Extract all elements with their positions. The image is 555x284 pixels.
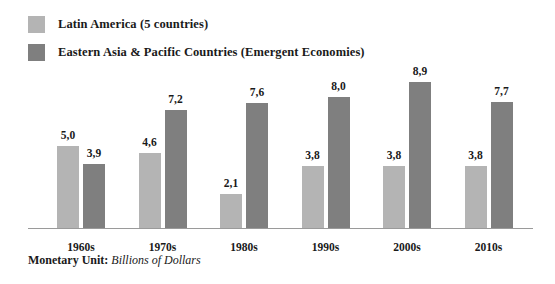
bar-latin-america: 4,6: [139, 153, 161, 228]
bar-eastern-asia-pacific: 7,7: [491, 102, 513, 228]
bar-value-label: 3,8: [305, 150, 319, 162]
plot-area: 5,03,91960s4,67,21970s2,17,61980s3,88,01…: [0, 0, 555, 284]
bar-latin-america: 2,1: [220, 194, 242, 228]
bar-latin-america: 3,8: [465, 166, 487, 228]
bar-value-label: 4,6: [142, 137, 156, 149]
bar-value-label: 3,8: [387, 150, 401, 162]
bar-value-label: 7,7: [494, 86, 508, 98]
bar-eastern-asia-pacific: 3,9: [83, 164, 105, 228]
bar-value-label: 8,0: [331, 81, 345, 93]
bar-latin-america: 3,8: [383, 166, 405, 228]
x-axis-label: 2010s: [475, 242, 502, 254]
monetary-unit-note: Monetary Unit: Billions of Dollars: [28, 254, 201, 266]
bar-eastern-asia-pacific: 8,9: [409, 82, 431, 228]
bar-latin-america: 5,0: [57, 146, 79, 228]
bar-value-label: 3,8: [468, 150, 482, 162]
x-axis-label: 1960s: [67, 242, 94, 254]
bar-latin-america: 3,8: [302, 166, 324, 228]
x-axis-label: 1990s: [312, 242, 339, 254]
bar-group: 3,87,72010s: [465, 0, 513, 284]
bar-group: 2,17,61980s: [220, 0, 268, 284]
bar-group: 3,88,01990s: [302, 0, 350, 284]
bar-value-label: 7,6: [250, 87, 264, 99]
bar-value-label: 8,9: [413, 66, 427, 78]
monetary-unit-value: Billions of Dollars: [111, 253, 200, 267]
bar-value-label: 2,1: [224, 178, 238, 190]
bar-group: 3,88,92000s: [383, 0, 431, 284]
bar-value-label: 5,0: [61, 130, 75, 142]
bar-eastern-asia-pacific: 7,6: [246, 103, 268, 228]
x-axis-label: 1980s: [230, 242, 257, 254]
bar-eastern-asia-pacific: 8,0: [328, 97, 350, 228]
bar-value-label: 3,9: [87, 148, 101, 160]
bar-value-label: 7,2: [168, 94, 182, 106]
bar-chart: Latin America (5 countries) Eastern Asia…: [0, 0, 555, 284]
monetary-unit-label: Monetary Unit:: [28, 253, 108, 267]
bar-eastern-asia-pacific: 7,2: [165, 110, 187, 228]
bar-group: 4,67,21970s: [139, 0, 187, 284]
x-axis-label: 1970s: [149, 242, 176, 254]
bar-group: 5,03,91960s: [57, 0, 105, 284]
x-axis-label: 2000s: [393, 242, 420, 254]
